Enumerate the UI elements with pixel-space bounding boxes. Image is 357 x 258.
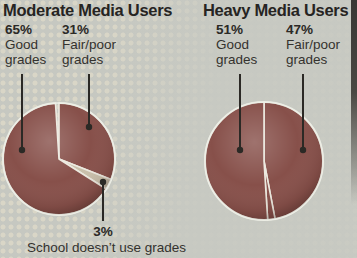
- pie-moderate-media-users: [3, 103, 115, 215]
- callout-line: Fair/poor: [286, 37, 340, 52]
- callout-line: grades: [286, 52, 340, 67]
- callout-line: Fair/poor: [62, 37, 116, 52]
- callout-pct: 31%: [62, 22, 116, 37]
- callout-pct: 51%: [216, 22, 257, 37]
- callout-fairpoor-moderate: 31% Fair/poor grades: [62, 22, 116, 67]
- chart-title-moderate: Moderate Media Users: [3, 1, 172, 20]
- footnote-label: School doesn’t use grades: [27, 240, 186, 255]
- media-grades-figure: Moderate Media Users Heavy Media Users 6…: [0, 0, 357, 258]
- callout-line: grades: [62, 52, 116, 67]
- callout-good-moderate: 65% Good grades: [5, 22, 46, 67]
- leader-dot-no-grades: [100, 179, 106, 185]
- callout-good-heavy: 51% Good grades: [216, 22, 257, 67]
- leader-dot-good-moderate: [19, 147, 25, 153]
- footnote-pct: 3%: [90, 224, 116, 239]
- callout-line: grades: [5, 52, 46, 67]
- callout-line: Good: [5, 37, 46, 52]
- callout-fairpoor-heavy: 47% Fair/poor grades: [286, 22, 340, 67]
- chart-title-heavy: Heavy Media Users: [203, 1, 348, 20]
- callout-line: grades: [216, 52, 257, 67]
- leader-dot-good-heavy: [237, 147, 243, 153]
- callout-pct: 65%: [5, 22, 46, 37]
- leader-dot-fairpoor-heavy: [300, 147, 306, 153]
- callout-pct: 47%: [286, 22, 340, 37]
- pie-heavy-media-users: [205, 102, 323, 220]
- leader-dot-fairpoor-moderate: [86, 124, 92, 130]
- page-edge-shadow: [351, 0, 357, 205]
- callout-line: Good: [216, 37, 257, 52]
